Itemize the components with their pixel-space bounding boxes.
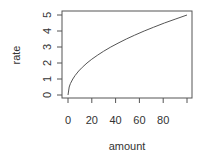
- y-tick-label: 1: [41, 76, 53, 82]
- x-axis: 020406080: [65, 98, 187, 126]
- x-tick-label: 80: [157, 114, 169, 126]
- x-tick-label: 60: [133, 114, 145, 126]
- y-axis-label: rate: [10, 46, 22, 65]
- data-line: [68, 15, 187, 95]
- plot-area: [62, 11, 192, 98]
- y-tick-label: 4: [41, 28, 53, 34]
- x-tick-label: 0: [65, 114, 71, 126]
- x-tick-label: 20: [86, 114, 98, 126]
- y-axis: 012345: [41, 12, 62, 98]
- y-tick-label: 2: [41, 60, 53, 66]
- y-tick-label: 0: [41, 92, 53, 98]
- chart: 012345 020406080 rate amount: [0, 0, 202, 160]
- x-tick-label: 40: [109, 114, 121, 126]
- x-axis-label: amount: [109, 140, 146, 152]
- y-tick-label: 5: [41, 12, 53, 18]
- y-tick-label: 3: [41, 44, 53, 50]
